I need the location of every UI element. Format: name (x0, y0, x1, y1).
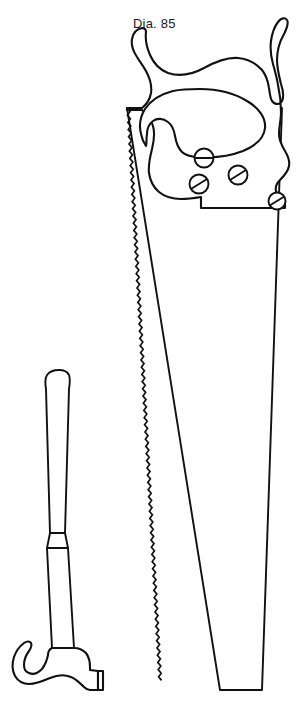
screw-3 (229, 166, 248, 185)
screw-1 (195, 149, 214, 168)
screw-4 (269, 193, 286, 210)
hammer-grip-band (47, 533, 68, 548)
claw-hammer-group (13, 370, 103, 690)
technical-drawing-canvas (0, 0, 306, 723)
hammer-face (98, 671, 103, 690)
dimension-label-dia-85: Dia. 85 (133, 16, 176, 31)
hammer-handle-upper (45, 370, 69, 533)
hammer-handle-lower (47, 548, 74, 648)
screw-2 (190, 175, 209, 194)
hammer-head (13, 642, 98, 691)
handsaw-group (127, 18, 289, 690)
